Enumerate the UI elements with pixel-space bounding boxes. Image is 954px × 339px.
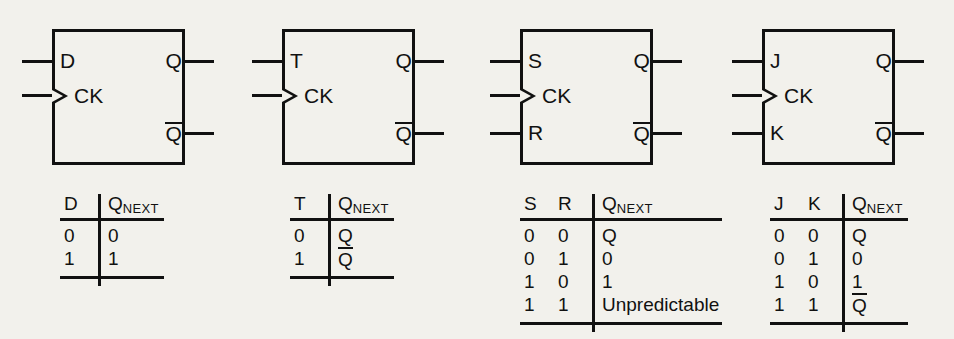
table-row: 1Q — [290, 247, 394, 270]
truth-table-cell-jk-flip-flop-r0-c1: 0 — [808, 224, 819, 247]
cell-text: 1 — [64, 248, 75, 269]
output-wire-q-sr-flip-flop — [651, 60, 682, 63]
flipflop-jk-flip-flop: JKCKQQ — [710, 0, 948, 185]
truth-table-grid-d-flip-flop: DQNEXT0011 — [60, 192, 164, 286]
pin-label-q-t-flip-flop: Q — [395, 50, 412, 71]
table-row: 010 — [770, 247, 908, 270]
truth-table-cell-jk-flip-flop-r2-c0: 1 — [774, 270, 785, 293]
qbar-text: Q — [165, 122, 182, 145]
truth-table-header-sr-flip-flop-1: R — [558, 192, 572, 215]
truth-table-cell-sr-flip-flop-r0-c1: 0 — [558, 224, 569, 247]
truth-table-jk-flip-flop: JKQNEXT00Q01010111Q — [770, 192, 908, 332]
output-wire-qbar-d-flip-flop — [183, 132, 214, 135]
truth-table-header-t-flip-flop-0: T — [294, 192, 306, 215]
truth-table-cell-sr-flip-flop-r2-c1: 0 — [558, 270, 569, 293]
truth-table-cell-jk-flip-flop-r2-c1: 0 — [808, 270, 819, 293]
cell-text: 0 — [808, 271, 819, 292]
truth-table-cell-d-flip-flop-r1-c1: 1 — [108, 247, 119, 270]
cell-text-overline: Q — [338, 247, 353, 271]
truth-table-bottom-rule-d-flip-flop — [60, 276, 164, 279]
table-row: 00 — [60, 224, 164, 247]
truth-table-header-sr-flip-flop-0: S — [524, 192, 537, 215]
cell-text: Q — [852, 295, 867, 316]
clock-input-d-flip-flop: CK — [52, 85, 103, 106]
pin-label-k-jk-flip-flop: K — [770, 122, 784, 143]
cell-text: 1 — [602, 271, 613, 292]
cell-text: 1 — [524, 271, 535, 292]
truth-table-top-rule-sr-flip-flop — [520, 218, 722, 221]
cell-text: 1 — [558, 248, 569, 269]
flipflop-d-flip-flop: DCKQQ — [0, 0, 238, 185]
qbar-text-overline: Q — [633, 122, 650, 144]
truth-table-cell-jk-flip-flop-r0-c0: 0 — [774, 224, 785, 247]
input-wire-bottom-jk-flip-flop — [732, 132, 764, 135]
clock-wire-jk-flip-flop — [732, 94, 764, 97]
pin-label-qbar-sr-flip-flop: Q — [633, 122, 650, 144]
output-wire-qbar-t-flip-flop — [413, 132, 444, 135]
cell-text: 1 — [108, 248, 119, 269]
cell-text: 1 — [808, 248, 819, 269]
truth-table-cell-jk-flip-flop-r1-c2: 0 — [852, 247, 863, 270]
pin-label-qbar-t-flip-flop: Q — [395, 122, 412, 144]
truth-table-cell-t-flip-flop-r1-c1: Q — [338, 247, 353, 271]
pin-label-q-sr-flip-flop: Q — [633, 50, 650, 71]
pin-label-qbar-jk-flip-flop: Q — [875, 122, 892, 144]
pin-label-j-jk-flip-flop: J — [770, 50, 781, 71]
table-row: 010 — [520, 247, 722, 270]
cell-text: 1 — [558, 294, 569, 315]
output-wire-qbar-sr-flip-flop — [651, 132, 682, 135]
truth-table-cell-d-flip-flop-r0-c1: 0 — [108, 224, 119, 247]
cell-text: 0 — [108, 225, 119, 246]
pin-label-d-d-flip-flop: D — [60, 50, 75, 71]
cell-text: 0 — [602, 248, 613, 269]
cell-text: 0 — [558, 225, 569, 246]
truth-table-header-jk-flip-flop-0: J — [774, 192, 784, 215]
input-wire-top-jk-flip-flop — [732, 60, 764, 63]
truth-table-cell-sr-flip-flop-r2-c0: 1 — [524, 270, 535, 293]
cell-text: 0 — [64, 225, 75, 246]
output-wire-q-t-flip-flop — [413, 60, 444, 63]
truth-table-cell-sr-flip-flop-r3-c2: Unpredictable — [602, 293, 719, 316]
truth-table-grid-jk-flip-flop: JKQNEXT00Q01010111Q — [770, 192, 908, 332]
truth-table-cell-jk-flip-flop-r2-c2: 1 — [852, 270, 863, 293]
qbar-text: Q — [395, 122, 412, 145]
cell-text: 1 — [852, 271, 863, 292]
input-wire-top-t-flip-flop — [252, 60, 284, 63]
cell-text: 0 — [524, 248, 535, 269]
qbar-text: Q — [875, 122, 892, 145]
truth-table-cell-jk-flip-flop-r1-c1: 1 — [808, 247, 819, 270]
table-row: 0Q — [290, 224, 394, 247]
table-row: 00Q — [520, 224, 722, 247]
truth-table-cell-sr-flip-flop-r1-c2: 0 — [602, 247, 613, 270]
truth-table-d-flip-flop: DQNEXT0011 — [60, 192, 164, 286]
cell-text: Q — [852, 225, 867, 246]
pin-label-q-d-flip-flop: Q — [165, 50, 182, 71]
pin-label-s-sr-flip-flop: S — [528, 50, 542, 71]
qbar-text-overline: Q — [875, 122, 892, 144]
clock-input-jk-flip-flop: CK — [762, 85, 813, 106]
truth-table-header-t-flip-flop-1: QNEXT — [338, 192, 389, 217]
truth-table-cell-sr-flip-flop-r0-c0: 0 — [524, 224, 535, 247]
cell-text: 0 — [808, 225, 819, 246]
truth-table-bottom-rule-sr-flip-flop — [520, 322, 722, 325]
cell-text: 1 — [294, 248, 305, 269]
pin-label-q-jk-flip-flop: Q — [875, 50, 892, 71]
cell-text: Unpredictable — [602, 294, 719, 315]
truth-table-cell-t-flip-flop-r0-c0: 0 — [294, 224, 305, 247]
input-wire-bottom-sr-flip-flop — [490, 132, 522, 135]
table-row: 11Unpredictable — [520, 293, 722, 316]
truth-table-cell-sr-flip-flop-r3-c1: 1 — [558, 293, 569, 316]
truth-table-top-rule-jk-flip-flop — [770, 218, 908, 221]
clock-label-t-flip-flop: CK — [304, 85, 333, 106]
truth-table-cell-sr-flip-flop-r1-c1: 1 — [558, 247, 569, 270]
qbar-text-overline: Q — [395, 122, 412, 144]
clock-wire-t-flip-flop — [252, 94, 284, 97]
cell-text: 1 — [774, 271, 785, 292]
truth-table-cell-sr-flip-flop-r3-c0: 1 — [524, 293, 535, 316]
output-wire-q-d-flip-flop — [183, 60, 214, 63]
cell-text: 1 — [524, 294, 535, 315]
clock-triangle-icon — [52, 87, 68, 105]
clock-label-sr-flip-flop: CK — [542, 85, 571, 106]
table-row: 101 — [770, 270, 908, 293]
pin-label-r-sr-flip-flop: R — [528, 122, 543, 143]
